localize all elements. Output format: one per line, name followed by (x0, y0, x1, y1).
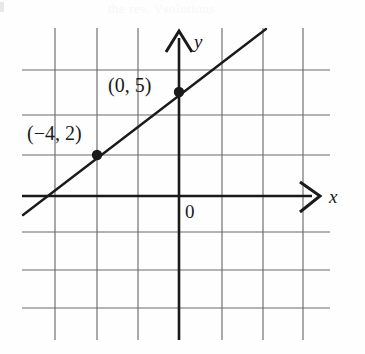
x-axis (22, 182, 320, 212)
origin-label: 0 (185, 201, 195, 222)
x-axis-label: x (328, 186, 338, 207)
y-axis-label: y (192, 31, 203, 52)
y-axis (166, 31, 192, 340)
point-label-0-5: (0, 5) (108, 74, 151, 97)
figure-root: the rev. Vsolutions (0, 0, 365, 354)
point-label-neg4-2: (−4, 2) (27, 122, 82, 145)
coordinate-plane-graph: (0, 5) (−4, 2) 0 y x (0, 0, 365, 354)
horizontal-gridlines (22, 70, 330, 308)
data-point-marker-neg4-2 (92, 150, 102, 160)
data-point-marker-0-5 (174, 87, 184, 97)
